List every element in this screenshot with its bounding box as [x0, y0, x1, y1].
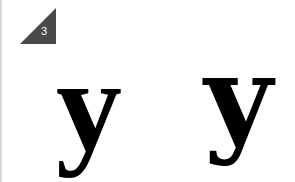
badge-number: 3 — [41, 25, 47, 37]
glyph-sample-left: y — [56, 40, 122, 172]
corner-badge: 3 — [20, 8, 56, 44]
triangle-icon — [20, 8, 56, 44]
left-border — [0, 0, 2, 182]
glyph-sample-right: y — [204, 40, 273, 158]
